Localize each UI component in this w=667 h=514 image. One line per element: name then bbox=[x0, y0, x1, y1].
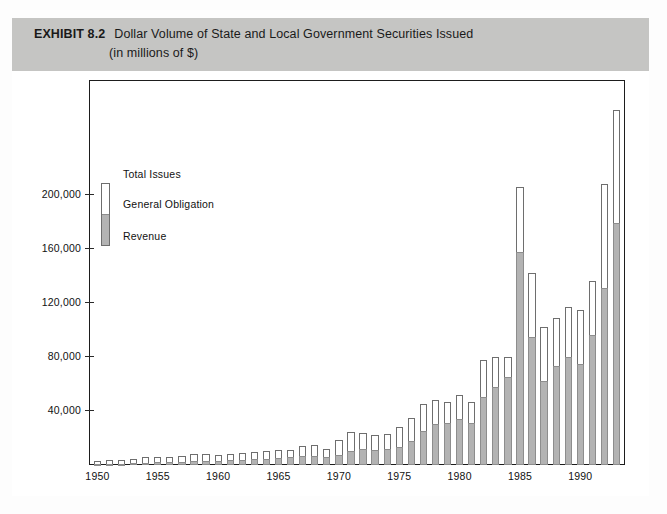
exhibit-header-line-1: EXHIBIT 8.2Dollar Volume of State and Lo… bbox=[34, 25, 643, 44]
exhibit-header-line-2: (in millions of $) bbox=[109, 44, 643, 63]
y-axis-tick bbox=[85, 356, 94, 357]
exhibit-title: Dollar Volume of State and Local Governm… bbox=[114, 27, 473, 41]
y-axis-tick-label: 120,000 bbox=[11, 296, 81, 308]
y-axis-tick bbox=[85, 410, 94, 411]
x-axis-tick-label: 1990 bbox=[568, 470, 592, 482]
x-axis-tick-label: 1965 bbox=[266, 470, 290, 482]
y-axis-tick bbox=[85, 194, 94, 195]
y-axis-tick-label: 80,000 bbox=[11, 350, 81, 362]
exhibit-number-label: EXHIBIT 8.2 bbox=[34, 27, 105, 41]
x-axis-tick-label: 1975 bbox=[387, 470, 411, 482]
x-axis-tick-label: 1980 bbox=[448, 470, 472, 482]
y-axis-tick-label: 40,000 bbox=[11, 404, 81, 416]
x-axis-tick-label: 1950 bbox=[85, 470, 109, 482]
exhibit-figure: EXHIBIT 8.2Dollar Volume of State and Lo… bbox=[0, 0, 667, 514]
legend-label-total-issues: Total Issues bbox=[123, 168, 181, 180]
x-axis-tick-label: 1985 bbox=[508, 470, 532, 482]
legend-label-general-obligation: General Obligation bbox=[123, 198, 214, 210]
y-axis-tick-label: 160,000 bbox=[11, 242, 81, 254]
legend-swatch-revenue bbox=[102, 214, 109, 245]
x-axis-tick-label: 1955 bbox=[146, 470, 170, 482]
y-axis-tick bbox=[85, 302, 94, 303]
y-axis-tick-label: 200,000 bbox=[11, 188, 81, 200]
chart-legend: Total Issues General Obligation Revenue bbox=[101, 168, 281, 248]
x-axis-tick-label: 1970 bbox=[327, 470, 351, 482]
x-axis-tick-label: 1960 bbox=[206, 470, 230, 482]
legend-swatch-stacked-bar bbox=[101, 183, 110, 246]
exhibit-header-text: EXHIBIT 8.2Dollar Volume of State and Lo… bbox=[34, 25, 643, 63]
legend-label-revenue: Revenue bbox=[123, 230, 166, 242]
chart-plot-area bbox=[89, 80, 625, 465]
y-axis-tick bbox=[85, 248, 94, 249]
exhibit-header-band: EXHIBIT 8.2Dollar Volume of State and Lo… bbox=[12, 18, 649, 71]
